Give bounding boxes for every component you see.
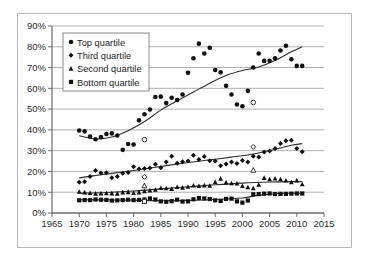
data-point-square [251,192,255,196]
data-point-diamond [88,174,93,179]
data-point-triangle [251,186,256,191]
data-point-square [132,198,136,202]
data-point-triangle [224,180,229,185]
data-point-diamond [153,162,158,167]
data-point-diamond [191,153,196,158]
data-point-circle [115,133,120,138]
data-point-triangle [294,178,299,183]
data-point-diamond [202,154,207,159]
data-point-square [159,199,163,203]
data-point-circle [284,43,289,48]
data-point-circle [99,135,104,140]
data-point-circle [207,46,212,51]
data-point-diamond [142,166,147,171]
data-point-triangle [245,185,250,190]
data-point-circle [240,104,245,109]
data-point-diamond [131,164,136,169]
data-point-diamond [169,154,174,159]
data-point-square [175,198,179,202]
data-point-square [289,192,293,196]
data-point-triangle [300,182,305,187]
data-point-square [77,198,81,202]
data-point-triangle [191,183,196,188]
data-point-circle [88,134,93,139]
data-point-circle [164,101,169,106]
data-point-square [235,199,239,203]
data-point-triangle [142,189,147,194]
data-point-square [208,197,212,201]
data-point-circle [69,40,74,45]
x-tick-label: 2015 [313,218,334,229]
data-point-diamond [256,154,261,159]
data-point-triangle [77,189,82,194]
data-point-diamond [147,166,152,171]
data-point-circle [262,59,267,64]
data-point-triangle [229,181,234,186]
data-point-diamond [109,175,114,180]
data-point-circle [180,92,185,97]
data-point-square [213,198,217,202]
data-point-square [180,199,184,203]
data-point-square [83,198,87,202]
x-tick-label: 2010 [286,218,307,229]
data-point-circle [273,56,278,61]
data-point-square [99,198,103,202]
data-point-square [88,198,92,202]
data-point-square [137,198,141,202]
data-point-diamond [142,174,147,179]
data-point-triangle [273,176,278,181]
data-point-diamond [267,149,272,154]
data-point-square [284,192,288,196]
data-point-circle [82,129,87,134]
data-point-square [170,199,174,203]
y-tick-label: 70% [27,62,47,73]
data-point-diamond [289,138,294,143]
data-point-diamond [245,159,250,164]
data-point-circle [289,57,294,62]
data-point-square [278,192,282,196]
data-point-diamond [137,166,142,171]
data-point-triangle [262,175,267,180]
data-point-diamond [82,179,87,184]
data-point-diamond [300,149,305,154]
data-point-circle [142,112,147,117]
x-tick-label: 1995 [205,218,226,229]
data-point-triangle [278,177,283,182]
data-point-circle [110,131,115,136]
data-point-triangle [240,183,245,188]
data-point-diamond [175,161,180,166]
data-point-square [148,196,152,200]
x-tick-label: 2005 [259,218,280,229]
data-point-circle [295,64,300,69]
data-point-circle [175,98,180,103]
data-point-diamond [278,141,283,146]
data-point-square [268,191,272,195]
data-point-square [121,198,125,202]
data-point-square [110,198,114,202]
legend-item-label-3: Bottom quartile [77,78,140,88]
data-point-square [164,200,168,204]
data-point-circle [202,51,207,56]
x-tick-label: 1975 [96,218,117,229]
data-point-diamond [283,138,288,143]
data-point-triangle [251,168,256,173]
data-point-square [219,199,223,203]
data-point-square [273,192,277,196]
data-point-triangle [213,179,218,184]
data-point-circle [137,118,142,123]
x-tick-label: 1970 [69,218,90,229]
data-point-diamond [240,158,245,163]
data-point-square [191,197,195,201]
x-tick-label: 1980 [123,218,144,229]
data-point-square [246,198,250,202]
data-point-diamond [77,180,82,185]
data-point-triangle [218,176,223,181]
x-tick-label: 1990 [177,218,198,229]
data-point-circle [186,70,191,75]
quartile-scatter-chart: 0%10%20%30%40%50%60%70%80%90%19651970197… [0,0,365,259]
legend-item-label-0: Top quartile [77,38,125,48]
data-point-circle [93,137,98,142]
data-point-square [115,198,119,202]
data-point-circle [120,148,125,153]
data-point-triangle [267,177,272,182]
